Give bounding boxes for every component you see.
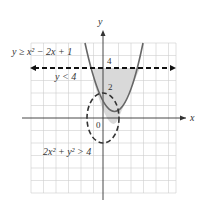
y-arrow-icon: [101, 30, 106, 36]
x-axis-label: x: [189, 112, 195, 123]
origin-label: 0: [96, 120, 101, 130]
tick-4: 4: [107, 56, 112, 66]
right-arrow-icon: [170, 65, 176, 71]
inequality-line: y < 4: [54, 71, 76, 82]
tick-2: 2: [108, 82, 113, 92]
inequality-ellipse: 2x² + y² > 4: [43, 146, 91, 157]
axes: [22, 32, 186, 200]
inequality-parabola: y ≥ x² − 2x + 1: [11, 46, 72, 57]
y-axis-label: y: [97, 16, 103, 27]
graph: y x 0 4 2 y ≥ x² − 2x + 1 y < 4 2x² + y²…: [0, 0, 209, 207]
x-arrow-icon: [180, 116, 186, 121]
